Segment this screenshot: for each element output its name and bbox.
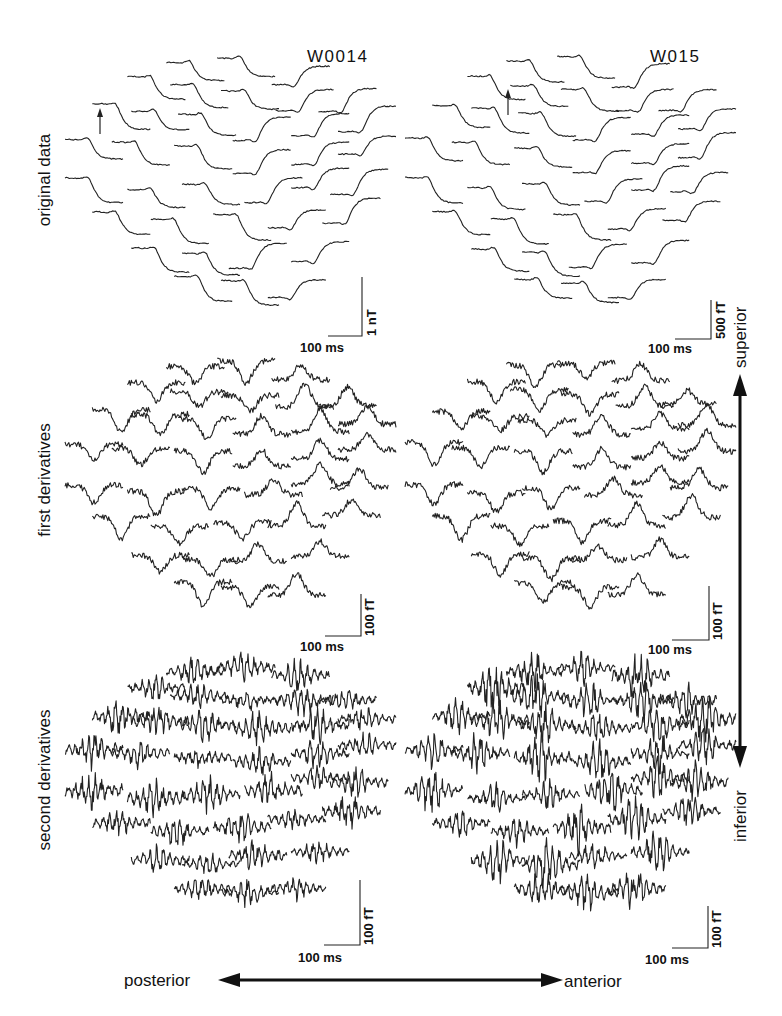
sensor-trace	[233, 149, 291, 175]
sensor-trace	[467, 490, 525, 513]
sensor-trace	[405, 440, 463, 467]
sensor-trace	[467, 667, 525, 708]
sensor-trace	[174, 448, 232, 474]
sensor-trace	[131, 707, 189, 734]
sensor-trace	[584, 476, 642, 498]
sensor-trace	[268, 878, 326, 902]
sensor-trace	[233, 746, 291, 775]
sensor-trace	[268, 809, 326, 829]
sensor-trace	[65, 736, 123, 772]
sensor-trace	[182, 486, 240, 510]
up-arrow-icon	[97, 108, 103, 134]
sensor-trace	[178, 113, 236, 136]
sensor-trace	[92, 811, 150, 836]
sensor-trace	[166, 60, 224, 81]
sensor-trace	[182, 183, 240, 205]
sensor-trace	[272, 365, 330, 383]
sensor-trace	[182, 775, 240, 815]
sensor-trace	[127, 778, 185, 818]
sensor-trace	[330, 468, 388, 491]
superior-inferior-arrow: superior inferior	[731, 306, 750, 842]
sensor-trace	[678, 428, 736, 454]
sensor-trace	[233, 449, 291, 469]
sensor-trace	[127, 188, 185, 208]
sensor-trace	[221, 880, 279, 908]
sensor-trace	[221, 89, 279, 109]
subject-title-right: W015	[650, 47, 700, 66]
sensor-trace	[229, 243, 287, 269]
row-label-second: second derivatives	[35, 710, 54, 851]
scale-time-first-left: 100 ms	[300, 639, 344, 654]
sensor-trace	[491, 218, 549, 245]
sensor-trace	[491, 523, 549, 547]
sensor-trace	[670, 467, 728, 490]
sensor-trace	[510, 387, 568, 413]
arrow-right-icon	[541, 973, 563, 987]
sensor-trace	[291, 113, 349, 137]
scale-amp-original-left: 1 nT	[364, 309, 379, 336]
sensor-trace	[678, 403, 736, 427]
scale-amp-first-right: 100 fT	[710, 602, 725, 640]
sensor-trace	[217, 652, 275, 682]
sensor-trace	[268, 573, 326, 598]
sensor-trace	[291, 241, 349, 263]
sensor-trace	[573, 739, 631, 778]
sensor-trace	[616, 89, 674, 113]
sensor-trace	[432, 513, 490, 542]
sensor-trace	[452, 733, 510, 774]
scale-time-first-right: 100 ms	[648, 642, 692, 657]
sensor-trace	[233, 413, 291, 437]
sensor-trace	[518, 418, 576, 438]
panel-second-right	[405, 651, 736, 911]
sensor-trace	[573, 415, 631, 438]
sensor-trace	[268, 501, 326, 529]
sensor-trace	[112, 446, 170, 467]
sensor-trace	[631, 240, 689, 265]
posterior-anterior-arrow: posterior anterior	[124, 971, 622, 991]
sensor-trace	[131, 109, 189, 130]
sensor-trace	[213, 814, 271, 843]
scalebar-original-right: 100 ms 500 fT	[648, 300, 728, 356]
sensor-trace	[65, 482, 123, 504]
sensor-trace	[678, 729, 736, 765]
sensor-trace	[291, 168, 349, 190]
sensor-trace	[557, 360, 615, 380]
sensor-traces	[65, 55, 736, 911]
sensor-trace	[338, 136, 396, 156]
sensor-trace	[244, 479, 302, 498]
sensor-trace	[471, 107, 529, 134]
sensor-trace	[467, 186, 525, 210]
sensor-trace	[170, 389, 228, 408]
sensor-trace	[432, 698, 490, 735]
sensor-trace	[330, 767, 388, 797]
sensor-trace	[573, 446, 631, 470]
sensor-trace	[174, 751, 232, 768]
sensor-trace	[405, 137, 463, 161]
sensor-trace	[631, 465, 689, 485]
arrow-down-icon	[733, 746, 747, 768]
sensor-trace	[330, 169, 388, 196]
sensor-trace	[338, 432, 396, 452]
sensor-trace	[522, 251, 580, 277]
sensor-trace	[569, 544, 627, 563]
sensor-trace	[291, 539, 349, 559]
scale-time-second-left: 100 ms	[298, 950, 342, 965]
sensor-trace	[151, 524, 209, 546]
sensor-trace	[174, 275, 232, 301]
sensor-trace	[514, 449, 572, 475]
sensor-trace	[561, 88, 619, 112]
sensor-trace	[405, 177, 463, 204]
row-label-first: first derivatives	[35, 423, 54, 536]
sensor-trace	[491, 819, 549, 848]
sensor-trace	[291, 406, 349, 434]
sensor-trace	[510, 84, 568, 106]
sensor-trace	[92, 407, 150, 432]
sensor-trace	[92, 701, 150, 733]
panel-second-left	[65, 652, 396, 907]
sensor-trace	[670, 172, 728, 194]
sensor-trace	[553, 214, 611, 241]
sensor-trace	[514, 580, 572, 603]
sensor-trace	[506, 60, 564, 83]
sensor-trace	[608, 501, 666, 528]
sensor-trace	[338, 732, 396, 754]
